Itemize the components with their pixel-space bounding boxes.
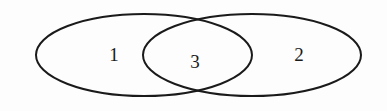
label-region-2: 2 bbox=[294, 44, 304, 65]
venn-diagram-svg: 1 3 2 bbox=[0, 0, 387, 111]
venn-diagram: 1 3 2 bbox=[0, 0, 387, 111]
label-region-3-intersection: 3 bbox=[190, 51, 200, 72]
label-region-1: 1 bbox=[109, 44, 119, 65]
